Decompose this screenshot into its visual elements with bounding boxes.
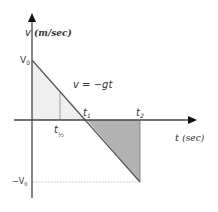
t-axis-unit: (sec) xyxy=(182,133,204,143)
v-axis-unit: (m/sec) xyxy=(34,28,72,38)
t-half-label: t½ xyxy=(54,125,64,135)
v-axis-arrow-icon xyxy=(28,13,36,22)
t-half-sub: ½ xyxy=(58,131,64,138)
t-axis-var: t xyxy=(175,132,179,143)
neg-v0-text: −V xyxy=(12,177,24,186)
neg-v0-label: −V0 xyxy=(12,178,27,186)
t1-label: t1 xyxy=(83,108,91,118)
t1-sub: 1 xyxy=(87,112,91,119)
velocity-time-diagram: v (m/sec) V0 v = −gt t1 t2 t½ t (sec) −V… xyxy=(0,0,218,212)
v0-label: V0 xyxy=(20,56,30,65)
v-axis-var: v xyxy=(25,27,31,38)
t2-sub: 2 xyxy=(140,112,144,119)
t2-label: t2 xyxy=(136,108,144,118)
v-axis-label: v (m/sec) xyxy=(25,28,72,38)
neg-v0-sub: 0 xyxy=(24,181,27,187)
t-axis-arrow-icon xyxy=(188,116,197,124)
equation-label: v = −gt xyxy=(73,80,112,90)
v0-sub: 0 xyxy=(26,59,30,66)
t-axis-label: t (sec) xyxy=(175,133,204,143)
